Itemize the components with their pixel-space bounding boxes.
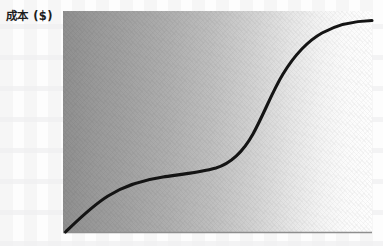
- cost-curve-figure: 成本 ($): [0, 0, 383, 246]
- cost-curve-line: [66, 21, 373, 233]
- curve-layer: [0, 0, 383, 246]
- y-axis-label: 成本 ($): [6, 7, 53, 23]
